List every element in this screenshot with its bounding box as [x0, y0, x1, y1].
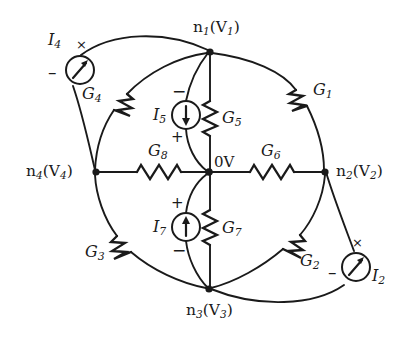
- label-I4: I4: [48, 32, 61, 51]
- branch-n4-g4-n1-lower: [95, 110, 114, 170]
- branch-n3-g3-n4-upper: [95, 175, 117, 236]
- branch-n3-i2-lower: [211, 285, 344, 302]
- resistor-G5-zigzag: [203, 101, 217, 136]
- label-G8: G8: [148, 143, 168, 162]
- label-G8-sub: 8: [161, 149, 168, 162]
- ground-label: 0V: [214, 155, 234, 170]
- node-dot-n3: [205, 285, 212, 292]
- node-dot-n1: [206, 48, 213, 55]
- node-label-n3: n3(V3): [186, 303, 233, 320]
- node-label-n2-voltage: V: [359, 162, 370, 180]
- label-G5-letter: G: [222, 108, 235, 127]
- label-G7-sub: 7: [235, 226, 242, 239]
- label-G7-letter: G: [222, 218, 235, 237]
- label-G2-sub: 2: [313, 259, 320, 272]
- node-dot-ground: [205, 168, 213, 176]
- node-label-n1: n1(V1): [193, 20, 240, 37]
- node-label-n1-sub: 1: [203, 25, 210, 37]
- node-label-n4-voltage: V: [49, 162, 60, 180]
- label-G3-sub: 3: [98, 250, 105, 263]
- node-label-n3-voltage: V: [209, 301, 220, 319]
- label-G5-sub: 5: [235, 116, 242, 129]
- label-G3: G3: [85, 244, 105, 263]
- node-label-n4-sub: 4: [36, 169, 43, 181]
- resistor-G8-zigzag: [137, 165, 181, 179]
- node-label-n4-voltage-sub: 4: [60, 169, 67, 181]
- branch-n2-g2-n3-lower: [211, 249, 283, 288]
- polarity-I4-plus: ×: [76, 38, 87, 51]
- node-label-n2-voltage-sub: 2: [370, 169, 377, 181]
- label-G1: G1: [313, 82, 333, 101]
- label-I2: I2: [372, 268, 385, 287]
- label-G7: G7: [222, 220, 242, 239]
- label-G6-sub: 6: [274, 149, 281, 162]
- label-I5-sub: 5: [159, 113, 166, 126]
- label-G3-letter: G: [85, 242, 98, 261]
- node-label-n3-voltage-sub: 3: [220, 308, 227, 320]
- label-G6-letter: G: [261, 141, 274, 160]
- polarity-I5-minus: −: [172, 83, 186, 100]
- branch-n1-g1-n2-upper: [212, 53, 296, 90]
- label-G4: G4: [82, 86, 102, 105]
- resistor-G1-zigzag: [289, 90, 307, 111]
- polarity-I7-minus: −: [172, 242, 186, 259]
- branch-i7-n3-lower: [186, 241, 208, 288]
- node-label-n4: n4(V4): [26, 164, 73, 181]
- branch-n2-g2-n3-upper: [300, 175, 325, 235]
- label-I4-sub: 4: [54, 38, 61, 51]
- label-G1-sub: 1: [326, 88, 333, 101]
- branch-i2-n2-upper: [326, 172, 354, 251]
- polarity-I7-plus: +: [171, 196, 184, 211]
- node-label-n3-sub: 3: [196, 308, 203, 320]
- branch-ground-i7-upper: [186, 174, 207, 213]
- node-label-n1-voltage: V: [216, 18, 227, 36]
- label-I7: I7: [153, 219, 166, 238]
- polarity-I5-plus: +: [171, 130, 184, 145]
- label-G1-letter: G: [313, 80, 326, 99]
- label-G4-sub: 4: [95, 92, 102, 105]
- node-label-n2: n2(V2): [336, 164, 383, 181]
- node-dot-n4: [92, 168, 99, 175]
- polarity-I2-minus: –: [328, 264, 337, 281]
- branch-i5-ground-lower: [186, 129, 207, 171]
- label-G5: G5: [222, 110, 242, 129]
- circuit-diagram-canvas: n1(V1) n2(V2) n3(V3) n4(V4) 0V G1 G2 G3 …: [0, 0, 414, 345]
- resistor-G7-zigzag: [203, 210, 217, 245]
- label-I2-sub: 2: [378, 274, 385, 287]
- node-dot-n2: [321, 168, 328, 175]
- label-G2: G2: [300, 253, 320, 272]
- label-I5: I5: [153, 107, 166, 126]
- resistor-G4-zigzag: [114, 94, 133, 116]
- label-G6: G6: [261, 143, 281, 162]
- label-G4-letter: G: [82, 84, 95, 103]
- polarity-I2-plus: ×: [352, 236, 363, 249]
- polarity-I4-minus: –: [48, 64, 57, 81]
- label-G2-letter: G: [300, 251, 313, 270]
- resistor-G3-zigzag: [111, 236, 131, 259]
- label-I7-sub: 7: [159, 225, 166, 238]
- branch-i4-n1-upper: [81, 36, 208, 55]
- resistor-G6-zigzag: [250, 165, 294, 179]
- node-label-n1-voltage-sub: 1: [227, 25, 234, 37]
- branch-n1-i5-upper: [186, 53, 208, 101]
- branch-n1-g1-n2-lower: [307, 106, 324, 170]
- node-label-n2-sub: 2: [346, 169, 353, 181]
- label-G8-letter: G: [148, 141, 161, 160]
